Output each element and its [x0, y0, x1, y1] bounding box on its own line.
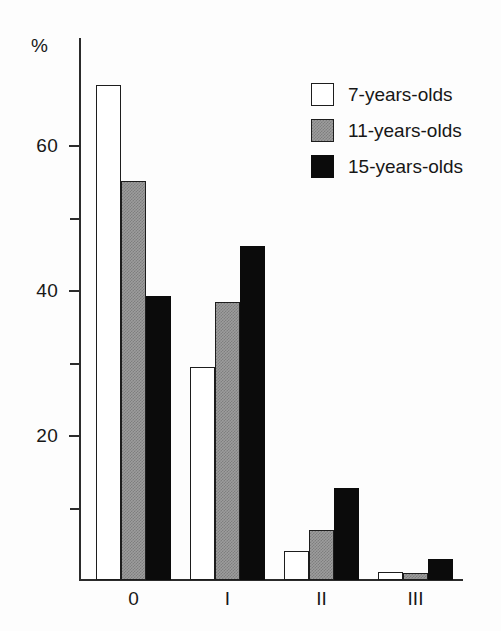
bar-II-white [284, 551, 309, 580]
bar-0-white [96, 85, 121, 580]
bar-I-gray [215, 302, 240, 580]
bar-0-black [146, 296, 171, 580]
bar-chart: % 604020 0IIIIII 7-years-olds11-years-ol… [0, 0, 501, 631]
bar-I-white [190, 367, 215, 580]
x-tick-label-III: III [381, 589, 451, 608]
legend-item-gray: 11-years-olds [311, 119, 463, 142]
legend-swatch-gray [311, 119, 334, 142]
x-tick-label-I: I [193, 589, 263, 608]
legend-swatch-white [311, 83, 334, 106]
bar-I-black [240, 246, 265, 580]
x-tick-label-0: 0 [99, 589, 169, 608]
legend-label-white: 7-years-olds [348, 85, 453, 104]
legend-item-white: 7-years-olds [311, 83, 463, 106]
legend: 7-years-olds11-years-olds15-years-olds [311, 83, 463, 191]
bar-II-gray [309, 530, 334, 580]
bar-III-white [378, 572, 403, 580]
legend-swatch-black [311, 155, 334, 178]
bar-III-gray [403, 573, 428, 580]
x-tick-label-II: II [287, 589, 357, 608]
legend-label-gray: 11-years-olds [348, 121, 462, 140]
legend-item-black: 15-years-olds [311, 155, 463, 178]
legend-label-black: 15-years-olds [348, 157, 463, 176]
bar-III-black [428, 559, 453, 580]
bar-II-black [334, 488, 359, 580]
bar-0-gray [121, 181, 146, 580]
